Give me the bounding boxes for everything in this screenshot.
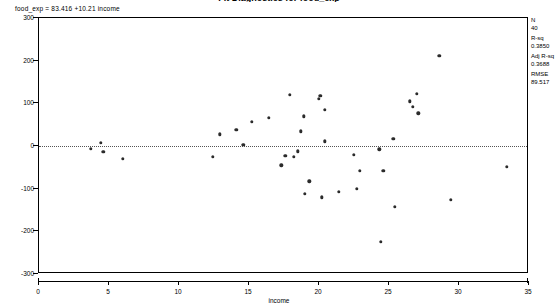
x-tick-label: 15: [244, 288, 251, 295]
data-point: [393, 205, 396, 208]
y-tick-label: -200: [8, 227, 34, 234]
x-tick-label: 25: [384, 288, 391, 295]
data-point: [211, 155, 214, 158]
x-tick-mark: [458, 281, 459, 285]
data-point: [505, 165, 508, 168]
data-point: [102, 150, 105, 153]
stat-entry: RMSE89.517: [531, 71, 558, 86]
data-point: [296, 149, 299, 152]
data-point: [299, 130, 302, 133]
data-point: [319, 94, 322, 97]
data-point: [382, 169, 385, 172]
x-tick-label: 35: [524, 288, 531, 295]
data-point: [355, 187, 358, 190]
y-tick-label: 200: [8, 56, 34, 63]
data-point: [218, 133, 221, 136]
data-point: [379, 240, 382, 243]
x-axis-line: [38, 281, 528, 282]
x-tick-label: 0: [36, 288, 40, 295]
plot-area: [39, 18, 527, 272]
stat-value: 0.3850: [531, 43, 558, 51]
data-point: [302, 114, 305, 117]
data-point: [377, 148, 380, 151]
data-point: [99, 141, 102, 144]
data-point: [89, 147, 92, 150]
data-point: [438, 54, 441, 57]
data-point: [250, 120, 253, 123]
data-point: [358, 169, 361, 172]
regression-equation-annotation: food_exp = 83.416 +10.21 income: [15, 5, 120, 12]
data-point: [417, 111, 420, 114]
data-point: [279, 163, 282, 166]
x-tick-mark: [38, 281, 39, 285]
data-point: [307, 180, 310, 183]
x-tick-label: 20: [314, 288, 321, 295]
stat-label: R-sq: [531, 35, 558, 43]
x-tick-mark: [388, 281, 389, 285]
data-point: [411, 105, 414, 108]
data-point: [303, 192, 306, 195]
fit-diagnostics-residual-plot: Fit Diagnostics for food_exp food_exp = …: [0, 0, 558, 307]
data-point: [292, 155, 295, 158]
y-tick-label: 300: [8, 14, 34, 21]
data-point: [288, 93, 291, 96]
y-tick-label: -300: [8, 270, 34, 277]
x-tick-label: 10: [174, 288, 181, 295]
zero-reference-line: [39, 146, 527, 147]
x-tick-mark: [178, 281, 179, 285]
x-tick-mark: [248, 281, 249, 285]
plot-frame: [38, 17, 528, 273]
x-tick-mark: [318, 281, 319, 285]
data-point: [391, 137, 394, 140]
y-tick-label: -100: [8, 184, 34, 191]
stat-value: 0.3688: [531, 61, 558, 69]
x-axis-title: income: [0, 297, 558, 304]
data-point: [235, 128, 238, 131]
stat-value: 40: [531, 25, 558, 33]
stat-label: Adj R-sq: [531, 53, 558, 61]
y-tick-label: 100: [8, 99, 34, 106]
stat-value: 89.517: [531, 79, 558, 87]
statistics-box: N40R-sq0.3850Adj R-sq0.3688RMSE89.517: [531, 17, 558, 89]
stat-label: RMSE: [531, 71, 558, 79]
data-point: [320, 195, 323, 198]
data-point: [284, 154, 287, 157]
data-point: [267, 116, 270, 119]
stat-entry: Adj R-sq0.3688: [531, 53, 558, 68]
data-point: [121, 157, 124, 160]
y-tick-label: 0: [8, 142, 34, 149]
data-point: [323, 108, 326, 111]
stat-entry: R-sq0.3850: [531, 35, 558, 50]
page-title: Fit Diagnostics for food_exp: [0, 0, 558, 2]
data-point: [323, 140, 326, 143]
data-point: [449, 198, 452, 201]
data-point: [415, 92, 418, 95]
x-tick-mark: [108, 281, 109, 285]
stat-label: N: [531, 17, 558, 25]
data-point: [352, 153, 355, 156]
data-point: [408, 99, 411, 102]
data-point: [317, 97, 320, 100]
x-tick-label: 5: [106, 288, 110, 295]
x-tick-mark: [528, 281, 529, 285]
x-tick-label: 30: [454, 288, 461, 295]
stat-entry: N40: [531, 17, 558, 32]
data-point: [337, 190, 340, 193]
